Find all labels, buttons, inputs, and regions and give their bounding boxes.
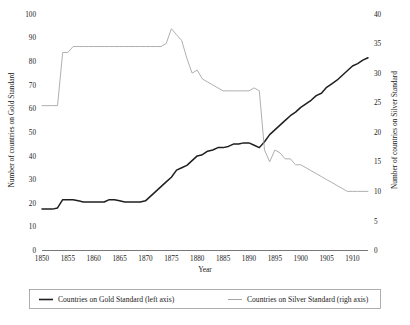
gold-silver-standard-line-chart: 0102030405060708090100 0510152025303540 …: [0, 0, 410, 325]
x-tick-1910: 1910: [345, 255, 360, 263]
left-tick-30: 30: [29, 176, 37, 184]
x-tick-1880: 1880: [190, 255, 205, 263]
left-tick-0: 0: [32, 247, 36, 255]
left-axis-title: Number of countries on Gold Standard: [7, 72, 16, 187]
left-tick-70: 70: [29, 82, 37, 90]
chart-figure: 0102030405060708090100 0510152025303540 …: [0, 0, 410, 325]
x-tick-1860: 1860: [87, 255, 102, 263]
right-axis-tick-labels: 0510152025303540: [374, 11, 382, 256]
left-tick-100: 100: [25, 11, 36, 19]
left-tick-40: 40: [29, 153, 37, 161]
x-tick-1900: 1900: [294, 255, 309, 263]
x-tick-1875: 1875: [164, 255, 179, 263]
x-tick-1855: 1855: [61, 255, 76, 263]
left-tick-90: 90: [29, 34, 37, 42]
right-tick-10: 10: [374, 188, 382, 196]
x-tick-1905: 1905: [319, 255, 334, 263]
x-tick-1850: 1850: [35, 255, 50, 263]
left-axis-tick-labels: 0102030405060708090100: [25, 11, 36, 256]
x-axis-title: Year: [198, 265, 212, 274]
right-tick-25: 25: [374, 99, 382, 107]
x-tick-1890: 1890: [242, 255, 257, 263]
right-tick-0: 0: [374, 247, 378, 255]
silver-standard-series-line: [42, 29, 368, 192]
right-tick-30: 30: [374, 70, 382, 78]
left-tick-20: 20: [29, 200, 37, 208]
right-tick-20: 20: [374, 129, 382, 137]
x-axis-tick-labels: 1850185518601865187018751880188518901895…: [35, 255, 360, 263]
x-tick-1865: 1865: [112, 255, 127, 263]
x-tick-1885: 1885: [216, 255, 231, 263]
legend-label-silver: Countries on Silver Standard (righ axis): [247, 295, 369, 304]
right-axis-title: Number of countries on Silver Standard: [390, 71, 399, 189]
right-tick-15: 15: [374, 158, 382, 166]
right-tick-5: 5: [374, 218, 378, 226]
left-tick-80: 80: [29, 58, 37, 66]
legend-label-gold: Countries on Gold Standard (left axis): [58, 295, 175, 304]
left-tick-50: 50: [29, 129, 37, 137]
left-tick-60: 60: [29, 105, 37, 113]
left-tick-10: 10: [29, 223, 37, 231]
right-tick-35: 35: [374, 40, 382, 48]
right-tick-40: 40: [374, 11, 382, 19]
x-tick-1870: 1870: [138, 255, 153, 263]
x-tick-1895: 1895: [268, 255, 283, 263]
